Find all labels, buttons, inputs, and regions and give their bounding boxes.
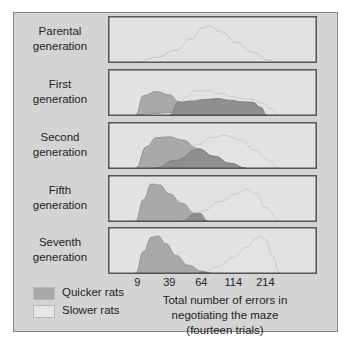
generation-label-line: Fifth: [14, 183, 106, 198]
legend-swatch-quicker: [33, 287, 55, 300]
x-tick-label: 64: [195, 276, 207, 288]
panel-plot: [108, 16, 317, 63]
generation-panel: [108, 122, 317, 169]
panel-plot: [108, 122, 317, 169]
generation-label: Secondgeneration: [14, 130, 106, 160]
panel-plot: [108, 175, 317, 222]
generation-label-line: Seventh: [14, 235, 106, 250]
legend-label-quicker: Quicker rats: [62, 286, 124, 298]
x-axis-label-line-2: negotiating the maze: [135, 308, 315, 323]
generation-panel: [108, 16, 317, 63]
x-axis-label-line-3: (fourteen trials): [135, 323, 315, 338]
x-tick-label: 114: [225, 276, 243, 288]
generation-label-line: generation: [14, 198, 106, 213]
generation-panel: [108, 227, 317, 274]
x-axis-label: Total number of errors in negotiating th…: [135, 293, 315, 338]
generation-label-line: generation: [14, 250, 106, 265]
generation-label: Fifthgeneration: [14, 183, 106, 213]
generation-label-line: First: [14, 77, 106, 92]
x-tick-label: 214: [256, 276, 274, 288]
x-tick-label: 9: [134, 276, 140, 288]
generation-label-line: generation: [14, 39, 106, 54]
generation-panel: [108, 175, 317, 222]
legend-label-slower: Slower rats: [62, 304, 120, 316]
generation-label: Firstgeneration: [14, 77, 106, 107]
generation-label-line: generation: [14, 92, 106, 107]
x-axis-label-line-1: Total number of errors in: [135, 293, 315, 308]
generation-label: Parentalgeneration: [14, 24, 106, 54]
legend-swatch-slower: [33, 305, 55, 318]
panel-background: [109, 17, 317, 63]
panel-plot: [108, 69, 317, 116]
x-tick-label: 39: [163, 276, 175, 288]
generation-label-line: generation: [14, 145, 106, 160]
generation-label-line: Second: [14, 130, 106, 145]
panel-plot: [108, 227, 317, 274]
generation-label: Seventhgeneration: [14, 235, 106, 265]
generation-panel: [108, 69, 317, 116]
generation-label-line: Parental: [14, 24, 106, 39]
